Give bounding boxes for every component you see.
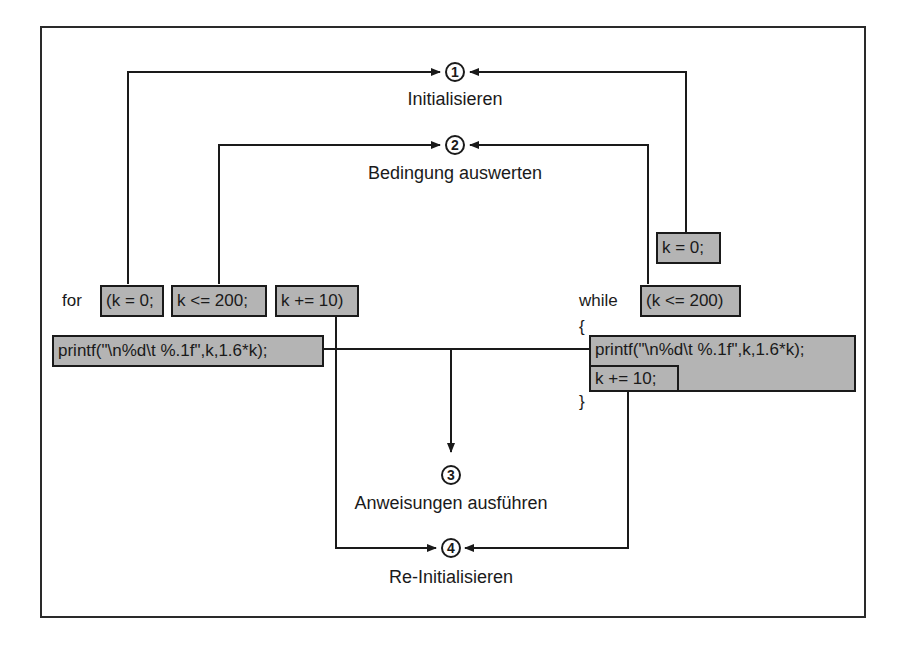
for-keyword: for <box>62 292 82 309</box>
step-4-label: Re-Initialisieren <box>389 568 513 586</box>
for-init-box: (k = 0; <box>100 285 164 317</box>
while-keyword: while <box>579 292 618 309</box>
step-3-marker: 3 <box>441 465 461 485</box>
step-4-marker: 4 <box>441 538 461 558</box>
while-init-box: k = 0; <box>656 232 721 264</box>
while-condition-box: (k <= 200) <box>640 285 741 317</box>
step-3-label: Anweisungen ausführen <box>354 494 547 512</box>
while-body-statement: printf("\n%d\t %.1f",k,1.6*k); <box>595 340 805 359</box>
step-2-label: Bedingung auswerten <box>368 164 542 182</box>
for-increment-box: k += 10) <box>275 285 359 317</box>
for-body-box: printf("\n%d\t %.1f",k,1.6*k); <box>52 335 324 367</box>
step-1-label: Initialisieren <box>407 90 502 108</box>
step-1-marker: 1 <box>445 62 465 82</box>
while-close-brace: } <box>579 393 585 410</box>
for-condition-box: k <= 200; <box>171 285 267 317</box>
while-open-brace: { <box>579 318 585 335</box>
while-increment-box: k += 10; <box>589 365 679 392</box>
step-2-marker: 2 <box>445 135 465 155</box>
